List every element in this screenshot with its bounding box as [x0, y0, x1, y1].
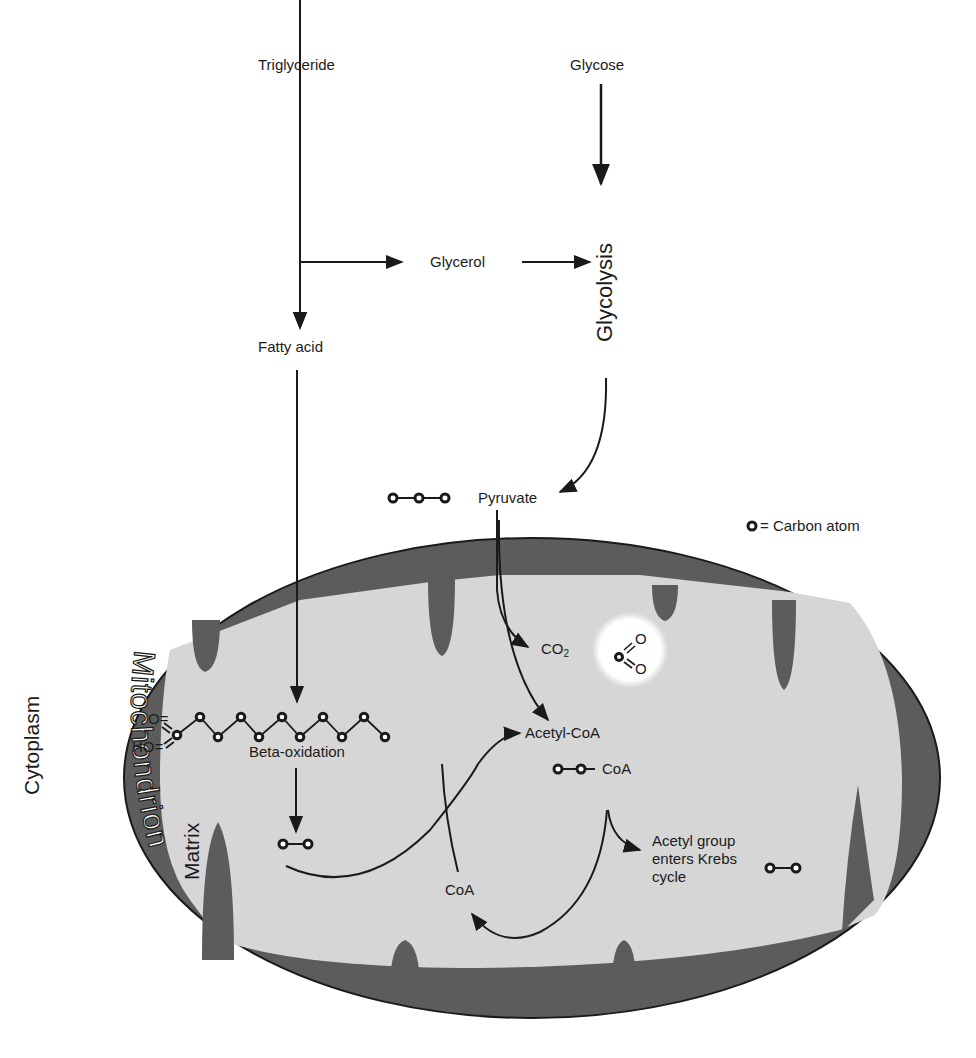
label-acetyl-coa-suffix: CoA — [602, 760, 631, 777]
label-krebs: Acetyl group enters Krebs cycle — [652, 832, 737, 886]
label-glycolysis: Glycolysis — [592, 243, 618, 342]
label-cytoplasm: Cytoplasm — [20, 696, 44, 795]
label-matrix: Matrix — [180, 823, 204, 880]
label-triglyceride: Triglyceride — [258, 56, 335, 73]
label-beta-oxidation: Beta-oxidation — [249, 743, 345, 760]
legend: = Carbon atom — [760, 517, 860, 534]
label-fatty-acid-ho: HO= — [132, 738, 163, 755]
legend-text: = Carbon atom — [760, 517, 860, 534]
arrow-glycolysis-to-pyruvate — [560, 378, 606, 492]
label-acetyl-coa: Acetyl-CoA — [525, 724, 600, 741]
label-fatty-acid-o: O= — [148, 710, 168, 727]
label-glycose: Glycose — [570, 56, 624, 73]
label-co2: CO2 — [541, 640, 569, 659]
label-pyruvate: Pyruvate — [478, 489, 537, 506]
label-glycerol: Glycerol — [430, 253, 485, 270]
mitochondrion — [124, 538, 940, 1018]
pyruvate-molecule — [389, 494, 449, 502]
carbon-atom-icon — [748, 522, 756, 530]
label-co2-o-top: O — [635, 630, 647, 647]
label-coa: CoA — [445, 881, 474, 898]
label-co2-o-bottom: O — [635, 660, 647, 677]
label-fatty-acid: Fatty acid — [258, 338, 323, 355]
